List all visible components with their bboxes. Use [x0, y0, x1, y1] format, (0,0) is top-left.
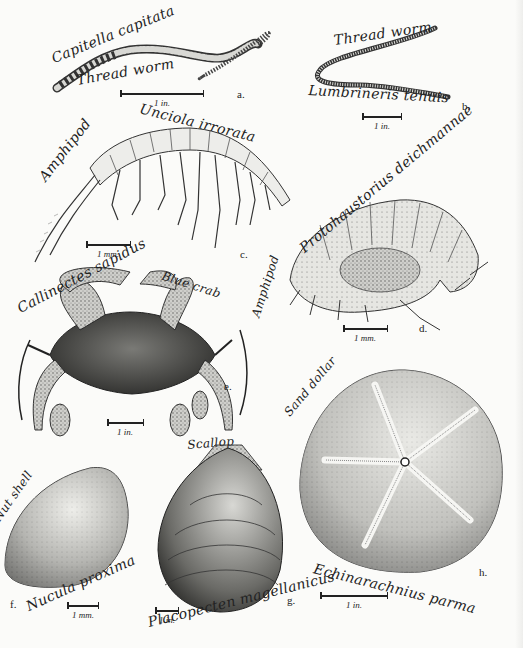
sand-dollar-drawing — [300, 370, 502, 572]
letter-c: c. — [240, 248, 248, 260]
page-edge-shadow — [515, 0, 523, 648]
illustration-plate: Capitella capitata Thread worm 1 in. a. … — [0, 0, 523, 648]
protohaustorius-amphipod-drawing — [290, 200, 488, 330]
letter-a: a. — [237, 88, 245, 100]
letter-e: e. — [224, 380, 232, 392]
letter-h: h. — [479, 566, 487, 578]
letter-d: d. — [419, 322, 427, 334]
letter-g: g. — [287, 594, 295, 606]
letter-f: f. — [10, 598, 16, 610]
